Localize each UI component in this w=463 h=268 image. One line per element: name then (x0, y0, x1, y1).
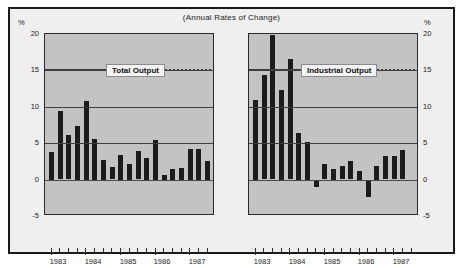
y-axis-tick-label: 15 (423, 65, 449, 74)
x-axis-minor-tick (411, 248, 412, 252)
x-axis-major-tick (255, 248, 256, 255)
y-axis-tick-label: 5 (423, 138, 449, 147)
y-axis-tick-label: 10 (423, 102, 449, 111)
x-axis-major-tick (189, 248, 190, 255)
bar-series-industrial-output (249, 34, 417, 214)
x-axis-minor-tick (298, 248, 299, 252)
y-axis-tick-label: 20 (13, 29, 39, 38)
x-axis-industrial-output: 19831984198519861987 (248, 248, 418, 268)
x-axis-major-tick (85, 248, 86, 255)
bar (196, 149, 201, 180)
y-axis-tick-label: 0 (423, 175, 449, 184)
bar (253, 100, 258, 180)
gridline (45, 143, 213, 144)
gridline (45, 107, 213, 108)
x-axis-year-label: 1986 (358, 257, 375, 266)
x-axis-year-label: 1985 (120, 257, 137, 266)
bar (374, 166, 379, 180)
x-axis-minor-tick (137, 248, 138, 252)
bar (170, 169, 175, 180)
x-axis-minor-tick (129, 248, 130, 252)
x-axis-major-tick (155, 248, 156, 255)
bar (322, 164, 327, 179)
bar (383, 156, 388, 179)
x-axis-major-tick (51, 248, 52, 255)
y-axis-tick-label: -5 (13, 211, 39, 220)
x-axis-minor-tick (111, 248, 112, 252)
y-axis-tick-label: 20 (423, 29, 449, 38)
zero-line (45, 180, 213, 181)
x-axis-minor-tick (68, 248, 69, 252)
bar (66, 135, 71, 179)
x-axis-minor-tick (402, 248, 403, 252)
y-axis-tick-label: 10 (13, 102, 39, 111)
bar (153, 140, 158, 180)
y-axis-tick-label: 0 (13, 175, 39, 184)
x-axis-major-tick (359, 248, 360, 255)
y-axis-tick-label: 15 (13, 65, 39, 74)
x-axis-year-label: 1987 (393, 257, 410, 266)
x-axis-total-output: 19831984198519861987 (44, 248, 214, 268)
x-axis-year-label: 1984 (289, 257, 306, 266)
plot-area-total-output (44, 33, 214, 215)
bar (305, 142, 310, 180)
x-axis-minor-tick (315, 248, 316, 252)
plot-area-industrial-output (248, 33, 418, 215)
x-axis-major-tick (393, 248, 394, 255)
y-axis-tick-label: -5 (423, 211, 449, 220)
x-axis-minor-tick (263, 248, 264, 252)
bar (75, 126, 80, 180)
x-axis-minor-tick (94, 248, 95, 252)
bar (188, 149, 193, 180)
bar (262, 75, 267, 179)
bar (348, 161, 353, 179)
x-axis-minor-tick (376, 248, 377, 252)
bar (288, 59, 293, 179)
bar (340, 166, 345, 179)
bar-series-total-output (45, 34, 213, 214)
x-axis-minor-tick (103, 248, 104, 252)
legend-industrial-output: Industrial Output (301, 64, 377, 77)
x-axis-major-tick (324, 248, 325, 255)
x-axis-minor-tick (272, 248, 273, 252)
x-axis-minor-tick (146, 248, 147, 252)
bar (49, 152, 54, 180)
gridline (249, 143, 417, 144)
bar (84, 101, 89, 180)
legend-leader-line-left (249, 69, 301, 70)
bar (331, 169, 336, 180)
x-axis-minor-tick (385, 248, 386, 252)
bar (357, 171, 362, 180)
bar (101, 160, 106, 180)
x-axis-minor-tick (172, 248, 173, 252)
x-axis-minor-tick (281, 248, 282, 252)
bar (179, 168, 184, 180)
bar (136, 151, 141, 179)
bar (279, 90, 284, 180)
bar (92, 139, 97, 180)
x-axis-minor-tick (333, 248, 334, 252)
legend-leader-line-left (45, 69, 106, 70)
x-axis-minor-tick (341, 248, 342, 252)
bar (366, 180, 371, 197)
x-axis-minor-tick (367, 248, 368, 252)
bar (127, 164, 132, 180)
y-axis-unit: % (18, 18, 25, 27)
y-axis-unit: % (424, 18, 431, 27)
bar (392, 156, 397, 179)
figure-title: (Annual Rates of Change) (0, 13, 463, 22)
bar (110, 167, 115, 179)
bar (314, 180, 319, 187)
x-axis-minor-tick (181, 248, 182, 252)
bar (400, 150, 405, 179)
legend-leader-line-right (377, 69, 417, 70)
x-axis-minor-tick (307, 248, 308, 252)
x-axis-year-label: 1986 (154, 257, 171, 266)
x-axis-minor-tick (77, 248, 78, 252)
x-axis-minor-tick (59, 248, 60, 252)
x-axis-minor-tick (350, 248, 351, 252)
bar (58, 111, 63, 179)
bar (205, 161, 210, 180)
bar (144, 158, 149, 180)
